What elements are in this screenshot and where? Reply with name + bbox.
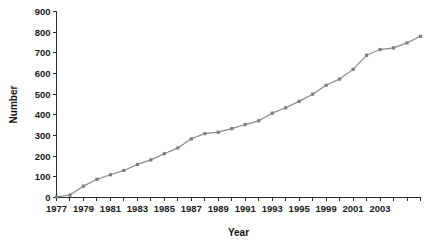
data-point — [365, 54, 368, 57]
y-tick-label: 500 — [35, 89, 51, 100]
data-point — [298, 100, 301, 103]
data-point — [244, 123, 247, 126]
data-point — [405, 41, 408, 44]
x-tick-label: 1999 — [316, 203, 337, 214]
y-axis-ticks: 0100200300400500600700800900 — [35, 6, 57, 203]
series-line-number — [57, 36, 421, 197]
data-point — [203, 132, 206, 135]
data-point — [163, 152, 166, 155]
x-tick-label: 1989 — [208, 203, 229, 214]
x-tick-label: 1983 — [127, 203, 148, 214]
data-point — [176, 146, 179, 149]
y-tick-label: 100 — [35, 171, 51, 182]
y-tick-label: 0 — [45, 192, 50, 203]
x-tick-label: 1979 — [73, 203, 94, 214]
data-point — [351, 68, 354, 71]
x-tick-label: 1995 — [289, 203, 311, 214]
y-axis-title: Number — [8, 86, 19, 124]
line-chart: 0100200300400500600700800900 19771979198… — [0, 0, 433, 247]
x-axis-title: Year — [228, 227, 249, 238]
x-axis-ticks: 1977197919811983198519871989199119931995… — [46, 198, 421, 215]
data-point — [271, 112, 274, 115]
x-tick-label: 1981 — [100, 203, 122, 214]
x-tick-label: 1991 — [235, 203, 257, 214]
data-point — [284, 106, 287, 109]
y-tick-label: 600 — [35, 68, 51, 79]
data-point — [136, 163, 139, 166]
x-tick-label: 2001 — [343, 203, 365, 214]
data-point — [122, 169, 125, 172]
data-point — [95, 178, 98, 181]
data-point — [109, 173, 112, 176]
y-tick-label: 400 — [35, 109, 51, 120]
x-tick-label: 1987 — [181, 203, 202, 214]
data-point — [55, 195, 58, 198]
data-point — [257, 119, 260, 122]
series-markers — [55, 35, 422, 199]
data-point — [190, 137, 193, 140]
data-point — [392, 46, 395, 49]
data-point — [311, 93, 314, 96]
data-point — [82, 185, 85, 188]
y-tick-label: 300 — [35, 130, 51, 141]
data-point — [325, 84, 328, 87]
data-point — [149, 158, 152, 161]
x-tick-label: 1993 — [262, 203, 283, 214]
y-tick-label: 900 — [35, 6, 51, 17]
x-tick-label: 1977 — [46, 203, 67, 214]
y-tick-label: 700 — [35, 47, 51, 58]
x-tick-label: 2003 — [369, 203, 390, 214]
data-point — [217, 131, 220, 134]
data-point — [338, 77, 341, 80]
data-point — [378, 48, 381, 51]
y-tick-label: 200 — [35, 151, 51, 162]
chart-canvas: 0100200300400500600700800900 19771979198… — [0, 0, 433, 247]
data-point — [68, 193, 71, 196]
y-tick-label: 800 — [35, 27, 51, 38]
data-point — [230, 127, 233, 130]
x-tick-label: 1985 — [154, 203, 176, 214]
data-point — [419, 35, 422, 38]
